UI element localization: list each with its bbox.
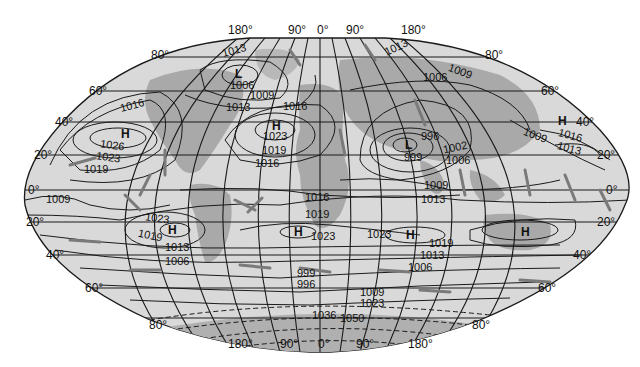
isobar-label: 1009 (424, 180, 448, 191)
lat-label-right-80s: 80° (472, 319, 490, 331)
lat-label-left-0: 0° (28, 184, 39, 196)
pressure-center-high: H (521, 226, 530, 238)
lat-label-right-40n: 40° (576, 116, 594, 128)
lon-label-top-180w: 180° (228, 24, 253, 36)
lon-label-top-0: 0° (317, 24, 328, 36)
isobar-label: 1023 (263, 131, 287, 142)
isobar-label: 996 (421, 131, 439, 142)
isobar-label: 1016 (255, 158, 279, 169)
lat-label-left-60n: 60° (89, 85, 107, 97)
lat-label-left-20n: 20° (34, 149, 52, 161)
lat-label-right-60n: 60° (541, 85, 559, 97)
lat-label-left-40s: 40° (46, 249, 64, 261)
lon-label-bottom-90w: 90° (280, 338, 298, 350)
pressure-center-high: H (406, 229, 415, 241)
lat-label-right-60s: 60° (538, 282, 556, 294)
isobar-label: 1013 (421, 194, 445, 205)
lon-label-bottom-180e: 180° (408, 338, 433, 350)
lat-label-left-80s: 80° (149, 319, 167, 331)
isobar-label: 1016 (283, 101, 307, 112)
lon-label-top-90e: 90° (346, 24, 364, 36)
pressure-center-high: H (294, 226, 303, 238)
lat-label-right-20s: 20° (597, 216, 615, 228)
lon-label-bottom-90e: 90° (356, 338, 374, 350)
isobar-label: 1006 (408, 262, 432, 273)
isobar-label: 1023 (367, 229, 391, 240)
isobar-label: 1023 (311, 231, 335, 242)
lat-label-right-40s: 40° (573, 249, 591, 261)
isobar-label: 996 (297, 279, 315, 290)
lon-label-top-180e: 180° (401, 24, 426, 36)
isobar-label: 1023 (360, 298, 384, 309)
lat-label-left-20s: 20° (26, 216, 44, 228)
isobar-label: 1006 (165, 256, 189, 267)
isobar-label: 1013 (226, 102, 250, 113)
lat-label-left-40n: 40° (55, 116, 73, 128)
lat-label-left-60s: 60° (85, 282, 103, 294)
pressure-center-high: H (168, 224, 177, 236)
lat-label-left-80n: 80° (151, 49, 169, 61)
isobar-label: 1050 (340, 313, 364, 324)
isobar-label: 1016 (305, 192, 329, 203)
isobar-label: 1019 (305, 209, 329, 220)
lat-label-right-80n: 80° (485, 49, 503, 61)
isobar-label: 1019 (84, 164, 108, 175)
lon-label-top-90w: 90° (288, 24, 306, 36)
isobar-label: 1009 (46, 194, 70, 205)
isobar-label: 1019 (262, 145, 286, 156)
isobar-label: 1006 (446, 155, 470, 166)
lon-label-bottom-0: 0° (318, 338, 329, 350)
pressure-center-high: H (121, 128, 130, 140)
lon-label-bottom-180w: 180° (228, 338, 253, 350)
isobar-label: 999 (404, 152, 422, 163)
lat-label-right-0: 0° (606, 184, 617, 196)
isobar-label: 1019 (429, 238, 453, 249)
isobar-label: 1013 (420, 250, 444, 261)
isobar-label: 1009 (250, 90, 274, 101)
pressure-center-low: L (405, 139, 412, 151)
lat-label-right-20n: 20° (597, 149, 615, 161)
isobar-label: 1006 (423, 72, 447, 83)
isobar-label: 1013 (165, 242, 189, 253)
isobar-label: 1036 (312, 310, 336, 321)
